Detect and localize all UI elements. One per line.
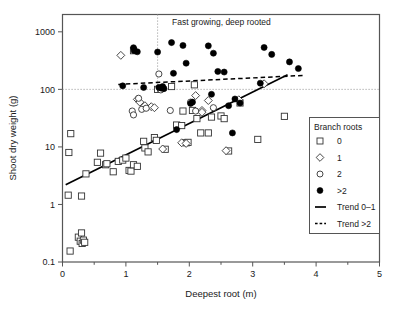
data-point — [168, 83, 174, 89]
legend: Branch roots 012>2Trend 0–1Trend >2 — [310, 118, 380, 234]
data-point — [155, 49, 161, 55]
scatter-plot-canvas: 012345 0.11101001000 Deepest root (m) Sh… — [0, 0, 412, 309]
data-point — [269, 51, 275, 57]
legend-label: 0 — [337, 136, 342, 146]
x-tick-label: 0 — [60, 269, 65, 279]
data-point — [221, 69, 227, 75]
data-point — [169, 40, 175, 46]
chart-figure: 012345 0.11101001000 Deepest root (m) Sh… — [0, 0, 412, 309]
x-tick-label: 3 — [250, 269, 255, 279]
data-point — [141, 138, 147, 144]
data-point — [78, 230, 84, 236]
y-tick-label: 100 — [40, 85, 55, 95]
data-point — [82, 239, 88, 245]
legend-swatch-circle-filled — [317, 188, 323, 194]
data-point — [183, 60, 189, 66]
data-point — [261, 44, 267, 50]
data-point — [153, 137, 159, 143]
data-point — [208, 91, 214, 97]
y-tick-label: 0.1 — [42, 257, 55, 267]
legend-swatch-square-open — [317, 138, 323, 144]
data-point — [191, 82, 197, 88]
legend-title: Branch roots — [314, 122, 362, 132]
x-axis-label: Deepest root (m) — [185, 288, 256, 299]
data-point — [145, 149, 151, 155]
legend-label: 2 — [337, 169, 342, 179]
data-point — [193, 108, 199, 114]
data-point — [66, 149, 72, 155]
data-point — [180, 42, 186, 48]
data-point — [210, 105, 216, 111]
data-point — [161, 86, 167, 92]
data-point — [97, 150, 103, 156]
legend-label: >2 — [337, 186, 347, 196]
data-point — [167, 107, 173, 113]
data-point — [83, 171, 89, 177]
data-point — [180, 108, 186, 114]
data-point — [237, 100, 243, 106]
data-point — [255, 136, 261, 142]
data-point — [205, 43, 211, 49]
y-axis-label: Shoot dry weight (g) — [7, 95, 18, 180]
y-tick-label: 10 — [45, 142, 55, 152]
data-point — [170, 70, 176, 76]
data-point — [135, 95, 141, 101]
data-point — [141, 84, 147, 90]
data-point — [194, 116, 200, 122]
data-point — [295, 66, 301, 72]
data-point — [134, 49, 140, 55]
y-tick-label: 1000 — [35, 27, 55, 37]
data-point — [65, 192, 71, 198]
data-point — [198, 130, 204, 136]
data-point — [210, 50, 216, 56]
data-point — [286, 59, 292, 65]
data-point — [94, 159, 100, 165]
data-point — [257, 80, 263, 86]
data-point — [215, 68, 221, 74]
legend-label: Trend >2 — [337, 219, 371, 229]
data-point — [229, 130, 235, 136]
data-point — [281, 113, 287, 119]
data-point — [110, 169, 116, 175]
data-point — [130, 112, 136, 118]
data-point — [221, 116, 227, 122]
data-point — [68, 131, 74, 137]
x-tick-label: 4 — [314, 269, 319, 279]
y-tick-label: 1 — [50, 200, 55, 210]
data-point — [189, 99, 195, 105]
data-point — [128, 168, 134, 174]
data-point — [208, 114, 214, 120]
data-point — [179, 122, 185, 128]
data-point — [104, 161, 110, 167]
data-point — [67, 248, 73, 254]
annotation-fast-growing: Fast growing, deep rooted — [172, 17, 271, 27]
x-tick-label: 2 — [187, 269, 192, 279]
legend-swatch-circle-open — [317, 171, 323, 177]
data-point — [120, 83, 126, 89]
legend-label: Trend 0–1 — [337, 202, 376, 212]
data-point — [123, 155, 129, 161]
x-tick-label: 1 — [123, 269, 128, 279]
data-point — [226, 103, 232, 109]
data-point — [134, 163, 140, 169]
data-point — [143, 105, 149, 111]
data-point — [174, 127, 180, 133]
data-point — [156, 71, 162, 77]
x-tick-label: 5 — [377, 269, 382, 279]
data-point — [205, 130, 211, 136]
legend-label: 1 — [337, 153, 342, 163]
data-point — [232, 96, 238, 102]
data-point — [78, 193, 84, 199]
